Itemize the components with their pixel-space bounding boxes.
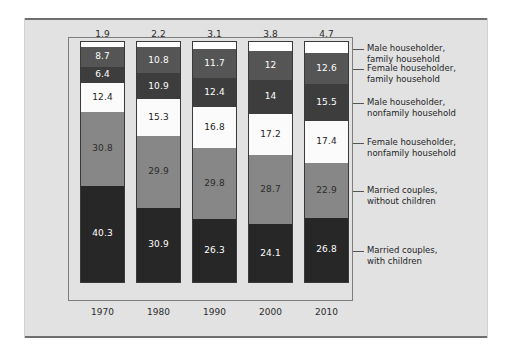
segment-value-label: 12 [265, 61, 277, 70]
bar-segment[interactable]: 15.3 [137, 99, 180, 136]
bar-1990[interactable]: 26.329.816.812.411.7 [192, 41, 237, 283]
bar-segment[interactable]: 8.7 [81, 47, 124, 68]
chart-panel: 40.330.812.46.48.71.9197030.929.915.310.… [25, 19, 487, 337]
bar-segment[interactable]: 30.8 [81, 112, 124, 186]
bar-segment[interactable]: 14 [249, 80, 292, 114]
x-axis-label-1990: 1990 [192, 307, 237, 317]
bar-segment[interactable]: 26.8 [305, 218, 348, 282]
segment-value-label: 15.5 [316, 98, 336, 107]
bar-top-value-1980: 2.2 [136, 29, 181, 39]
legend-leader-line [353, 143, 364, 144]
legend-label[interactable]: Male householder, family household [367, 43, 445, 64]
bar-segment[interactable]: 29.8 [193, 148, 236, 219]
bar-segment[interactable]: 17.2 [249, 114, 292, 155]
segment-value-label: 17.2 [260, 130, 280, 139]
segment-value-label: 40.3 [92, 229, 112, 238]
segment-value-label: 8.7 [95, 52, 110, 61]
bar-segment[interactable] [137, 42, 180, 47]
bar-segment[interactable]: 30.9 [137, 208, 180, 282]
bar-segment[interactable]: 12.4 [193, 78, 236, 108]
legend-leader-line [353, 251, 364, 252]
bar-top-value-1970: 1.9 [80, 29, 125, 39]
bar-segment[interactable]: 12.4 [81, 83, 124, 113]
legend-label[interactable]: Married couples, with children [367, 245, 437, 266]
bar-top-value-1990: 3.1 [192, 29, 237, 39]
segment-value-label: 22.9 [316, 186, 336, 195]
segment-value-label: 10.9 [148, 82, 168, 91]
segment-value-label: 6.4 [95, 70, 110, 79]
bar-segment[interactable]: 10.9 [137, 73, 180, 99]
bar-segment[interactable]: 12 [249, 51, 292, 80]
segment-value-label: 26.8 [316, 245, 336, 254]
bar-segment[interactable]: 11.7 [193, 49, 236, 77]
segment-value-label: 24.1 [260, 249, 280, 258]
x-axis-label-2000: 2000 [248, 307, 293, 317]
chart-legend: Male householder, family householdFemale… [353, 37, 503, 301]
segment-value-label: 11.7 [204, 59, 224, 68]
bar-2010[interactable]: 26.822.917.415.512.6 [304, 41, 349, 283]
legend-leader-line [353, 49, 364, 50]
segment-value-label: 10.8 [148, 56, 168, 65]
segment-value-label: 12.4 [92, 93, 112, 102]
legend-label[interactable]: Married couples, without children [367, 185, 437, 206]
segment-value-label: 28.7 [260, 185, 280, 194]
legend-label[interactable]: Female householder, family household [367, 63, 456, 84]
bar-segment[interactable]: 12.6 [305, 53, 348, 83]
legend-leader-line [353, 69, 364, 70]
segment-value-label: 29.9 [148, 167, 168, 176]
segment-value-label: 15.3 [148, 113, 168, 122]
stacked-bar-chart: 40.330.812.46.48.71.9197030.929.915.310.… [68, 37, 353, 301]
segment-value-label: 12.4 [204, 88, 224, 97]
segment-value-label: 26.3 [204, 246, 224, 255]
bar-segment[interactable]: 22.9 [305, 163, 348, 218]
bar-segment[interactable]: 29.9 [137, 136, 180, 208]
segment-value-label: 16.8 [204, 123, 224, 132]
x-axis-label-1970: 1970 [80, 307, 125, 317]
bar-top-value-2000: 3.8 [248, 29, 293, 39]
bar-segment[interactable]: 10.8 [137, 47, 180, 73]
segment-value-label: 17.4 [316, 137, 336, 146]
legend-label[interactable]: Female householder, nonfamily household [367, 137, 456, 158]
bar-segment[interactable]: 15.5 [305, 84, 348, 121]
bar-top-value-2010: 4.7 [304, 29, 349, 39]
bar-segment[interactable] [81, 42, 124, 47]
bar-segment[interactable]: 28.7 [249, 155, 292, 224]
bar-segment[interactable]: 17.4 [305, 121, 348, 163]
x-axis-label-2010: 2010 [304, 307, 349, 317]
legend-label[interactable]: Male householder, nonfamily household [367, 97, 456, 118]
bar-1980[interactable]: 30.929.915.310.910.8 [136, 41, 181, 283]
legend-leader-line [353, 103, 364, 104]
segment-value-label: 14 [265, 92, 277, 101]
bar-segment[interactable]: 24.1 [249, 224, 292, 282]
segment-value-label: 29.8 [204, 179, 224, 188]
bar-segment[interactable]: 6.4 [81, 67, 124, 82]
bar-2000[interactable]: 24.128.717.21412 [248, 41, 293, 283]
segment-value-label: 30.9 [148, 240, 168, 249]
bar-segment[interactable] [193, 42, 236, 49]
bar-segment[interactable]: 40.3 [81, 186, 124, 282]
bar-segment[interactable]: 26.3 [193, 219, 236, 282]
segment-value-label: 30.8 [92, 144, 112, 153]
bar-segment[interactable] [249, 42, 292, 51]
bar-segment[interactable] [305, 42, 348, 53]
bar-1970[interactable]: 40.330.812.46.48.7 [80, 41, 125, 283]
x-axis-label-1980: 1980 [136, 307, 181, 317]
bar-segment[interactable]: 16.8 [193, 107, 236, 147]
legend-leader-line [353, 191, 364, 192]
segment-value-label: 12.6 [316, 64, 336, 73]
